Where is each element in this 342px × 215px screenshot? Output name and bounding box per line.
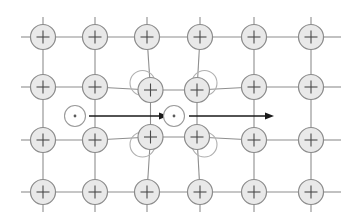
electron-charge-dot-icon	[173, 115, 176, 118]
displaced-ion-top-left	[138, 78, 163, 103]
lattice-ion	[299, 25, 324, 50]
lattice-diagram-figure	[0, 0, 342, 215]
lattice-ion	[135, 180, 160, 205]
lattice-ion	[31, 75, 56, 100]
lattice-ion	[242, 128, 267, 153]
lattice-ion	[83, 128, 108, 153]
lattice-ion	[31, 25, 56, 50]
lattice-ion	[242, 25, 267, 50]
lattice-ion	[83, 75, 108, 100]
lattice-ion	[242, 75, 267, 100]
lattice-ion	[299, 75, 324, 100]
electron-charge-dot-icon	[74, 115, 77, 118]
lattice-ion	[188, 25, 213, 50]
lattice-ion	[299, 180, 324, 205]
lattice-ion	[299, 128, 324, 153]
lattice-ion	[135, 25, 160, 50]
lattice-ion	[83, 180, 108, 205]
displaced-ion-bottom-right	[185, 125, 210, 150]
lattice-ion	[31, 180, 56, 205]
lattice-ion	[83, 25, 108, 50]
electron-leading	[65, 106, 86, 127]
lattice-ion	[188, 180, 213, 205]
displaced-ion-bottom-left	[138, 125, 163, 150]
lattice-ion	[31, 128, 56, 153]
lattice-canvas	[0, 0, 342, 215]
electron-trailing	[164, 106, 185, 127]
displaced-ion-top-right	[185, 78, 210, 103]
lattice-ion	[242, 180, 267, 205]
